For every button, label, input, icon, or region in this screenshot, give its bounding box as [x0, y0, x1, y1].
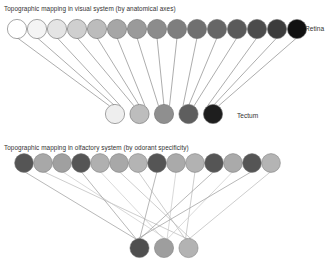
projection-line	[213, 38, 277, 106]
tectum-cell	[179, 104, 198, 123]
retinotectal-projections	[17, 38, 297, 106]
olfactory-receptor-cell	[262, 154, 281, 173]
retina-cell	[187, 19, 206, 38]
topographic-mapping-diagram	[0, 0, 326, 263]
olfactory-receptor-cell	[53, 154, 72, 173]
retina-cell	[167, 19, 186, 38]
retina-cell	[247, 19, 266, 38]
projection-line	[117, 38, 145, 106]
olfactory-receptor-cell	[72, 154, 91, 173]
odorant-projection-line	[43, 171, 189, 239]
retina-cell	[47, 19, 66, 38]
olfactory-receptor-cell	[148, 154, 167, 173]
retina-cell-row	[7, 19, 306, 38]
retina-cell	[7, 19, 26, 38]
olfactory-receptor-cell	[167, 154, 186, 173]
olfactory-receptor-cell	[205, 154, 224, 173]
glomeruli-row	[130, 238, 198, 257]
glomerulus	[130, 238, 149, 257]
tectum-cell	[130, 104, 149, 123]
glomerulus	[154, 238, 173, 257]
projection-line	[170, 38, 178, 106]
projection-line	[157, 38, 164, 106]
olfactory-projections	[24, 171, 271, 239]
retina-cell	[227, 19, 246, 38]
retina-cell	[67, 19, 86, 38]
olfactory-receptor-row	[15, 154, 281, 173]
odorant-projection-line	[81, 171, 137, 239]
olfactory-receptor-cell	[15, 154, 34, 173]
retina-cell	[107, 19, 126, 38]
retina-cell	[207, 19, 226, 38]
retina-cell	[267, 19, 286, 38]
projection-line	[77, 38, 134, 106]
olfactory-receptor-cell	[243, 154, 262, 173]
olfactory-receptor-cell	[91, 154, 110, 173]
projection-line	[208, 38, 258, 106]
retina-cell	[127, 19, 146, 38]
tectum-cell-row	[105, 104, 222, 123]
projection-line	[17, 38, 110, 106]
odorant-projection-line	[24, 171, 137, 239]
olfactory-receptor-cell	[186, 154, 205, 173]
odorant-projection-line	[119, 171, 192, 239]
retina-cell	[287, 19, 306, 38]
projection-line	[137, 38, 159, 106]
odorant-projection-line	[137, 171, 253, 239]
odorant-projection-line	[167, 171, 176, 239]
olfactory-receptor-cell	[110, 154, 129, 173]
projection-line	[189, 38, 218, 106]
odorant-projection-line	[138, 171, 186, 239]
odorant-projection-line	[189, 171, 272, 239]
retina-cell	[147, 19, 166, 38]
retina-cell	[27, 19, 46, 38]
projection-line	[57, 38, 121, 106]
projection-line	[183, 38, 197, 106]
tectum-cell	[105, 104, 124, 123]
olfactory-receptor-cell	[34, 154, 53, 173]
glomerulus	[179, 238, 198, 257]
tectum-cell	[154, 104, 173, 123]
olfactory-receptor-cell	[224, 154, 243, 173]
retina-cell	[87, 19, 106, 38]
tectum-cell	[203, 104, 222, 123]
odorant-projection-line	[62, 171, 167, 239]
olfactory-receptor-cell	[129, 154, 148, 173]
